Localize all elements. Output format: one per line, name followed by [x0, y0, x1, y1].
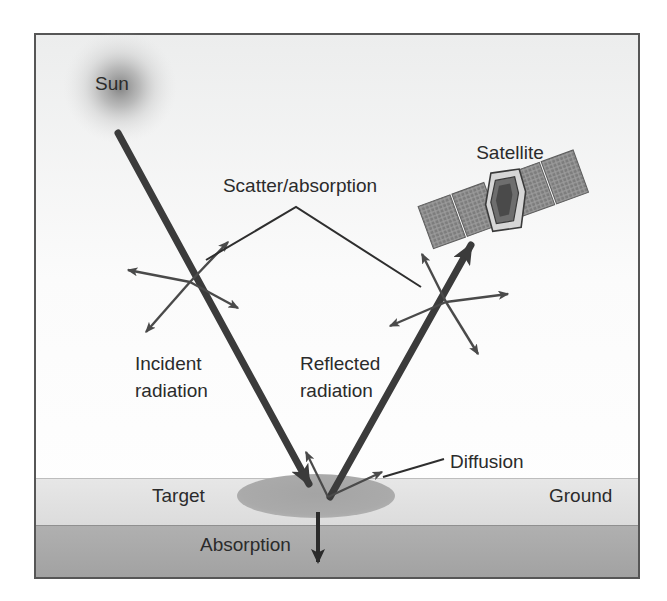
target-label: Target: [152, 485, 206, 506]
radiation-path-diagram: Sun Satellite Scatter/absorption Inciden…: [0, 0, 667, 601]
absorption-label: Absorption: [200, 534, 291, 555]
sun-label: Sun: [95, 73, 129, 94]
reflected-radiation-label-line1: Reflected: [300, 353, 380, 374]
reflected-radiation-label-line2: radiation: [300, 380, 373, 401]
diffusion-label: Diffusion: [450, 451, 524, 472]
ground-label: Ground: [549, 485, 612, 506]
incident-radiation-label-line1: Incident: [135, 353, 202, 374]
ground-subsurface-band: [36, 525, 638, 577]
incident-radiation-label-line2: radiation: [135, 380, 208, 401]
satellite-label: Satellite: [476, 142, 544, 163]
target-ellipse: [237, 474, 395, 518]
diagram-canvas: Sun Satellite Scatter/absorption Inciden…: [0, 0, 667, 601]
scatter-absorption-label: Scatter/absorption: [223, 175, 377, 196]
satellite-body: [484, 167, 527, 234]
